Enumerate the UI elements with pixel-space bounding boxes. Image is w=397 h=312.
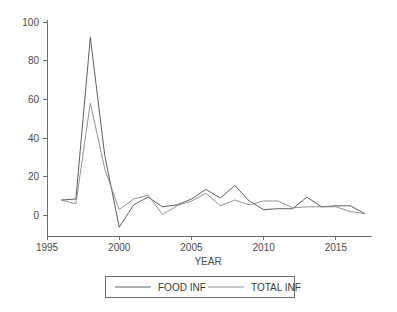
x-tick-label: 2005 xyxy=(180,242,203,253)
series-line-total-inf xyxy=(61,103,364,214)
x-tick-label: 2015 xyxy=(325,242,348,253)
y-tick-label: 20 xyxy=(28,171,40,182)
x-axis: 19952000200520102015 xyxy=(36,236,372,253)
y-tick-label: 40 xyxy=(28,133,40,144)
x-tick-label: 1995 xyxy=(36,242,59,253)
y-tick-label: 0 xyxy=(33,210,39,221)
x-axis-title: YEAR xyxy=(194,256,221,267)
series-group xyxy=(61,37,364,227)
chart-container: 020406080100 19952000200520102015 YEAR F… xyxy=(0,0,397,312)
line-chart: 020406080100 19952000200520102015 YEAR F… xyxy=(0,0,397,312)
legend-label-total-inf: TOTAL INF xyxy=(251,282,301,293)
x-tick-group: 19952000200520102015 xyxy=(36,236,348,253)
y-axis: 020406080100 xyxy=(22,17,47,237)
x-tick-label: 2010 xyxy=(253,242,276,253)
y-tick-label: 100 xyxy=(22,17,39,28)
y-tick-group: 020406080100 xyxy=(22,17,47,222)
legend-label-food-inf: FOOD INF xyxy=(158,282,206,293)
y-tick-label: 60 xyxy=(28,94,40,105)
series-line-food-inf xyxy=(61,37,364,227)
legend: FOOD INFTOTAL INF xyxy=(106,277,301,298)
y-tick-label: 80 xyxy=(28,55,40,66)
x-tick-label: 2000 xyxy=(108,242,131,253)
legend-entries: FOOD INFTOTAL INF xyxy=(115,282,301,293)
